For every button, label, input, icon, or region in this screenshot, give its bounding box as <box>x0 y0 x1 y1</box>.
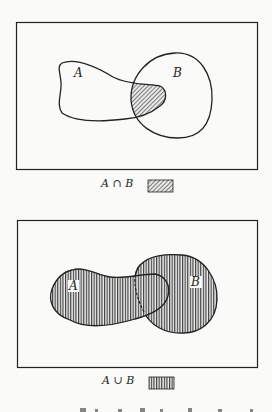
set-a-label: A <box>73 66 83 80</box>
set-b-label: B <box>190 275 200 289</box>
set-a-label: A <box>68 279 78 293</box>
set-b-label: B <box>172 66 182 80</box>
venn-diagrams: A B A ∩ B A B A ∪ B <box>0 0 272 412</box>
legend-swatch-vertical <box>149 377 174 389</box>
intersection-diagram: A B A ∩ B <box>17 23 258 193</box>
legend-label: A ∩ B <box>100 177 133 190</box>
union-diagram: A B A ∪ B <box>18 221 258 390</box>
legend-swatch-diagonal <box>148 180 173 192</box>
legend-label: A ∪ B <box>101 374 134 387</box>
caption-fragment <box>80 408 253 412</box>
